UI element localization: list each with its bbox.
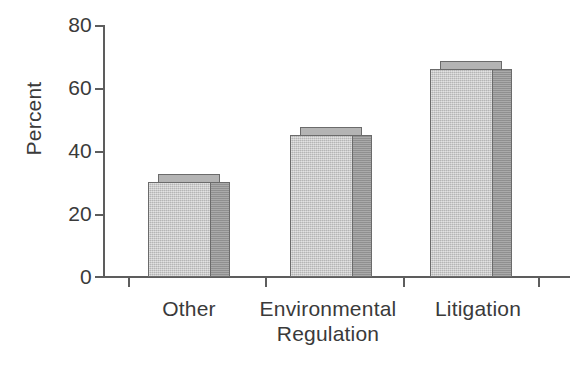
bar-other-side-face	[210, 182, 230, 277]
x-category-label-other: Other	[124, 296, 254, 321]
y-tick-80	[95, 25, 104, 27]
x-category-label-litigation-line1: Litigation	[435, 297, 521, 320]
bar-other[interactable]	[148, 182, 230, 277]
x-tick-3	[403, 278, 405, 287]
x-category-label-environmental-regulation: Environmental Regulation	[248, 296, 408, 346]
x-category-label-litigation: Litigation	[408, 296, 548, 321]
x-tick-2	[265, 278, 267, 287]
y-tick-label-0: 0	[36, 266, 92, 287]
bar-litigation-front-face	[430, 69, 493, 277]
plot-area: 80 60 40 20 0 Percent	[0, 0, 586, 373]
x-category-label-environmental-regulation-line2: Regulation	[248, 321, 408, 346]
y-axis-title: Percent	[23, 69, 44, 169]
y-tick-label-80: 80	[36, 14, 92, 35]
x-category-label-environmental-regulation-line1: Environmental	[260, 297, 397, 320]
bar-environmental-regulation[interactable]	[290, 135, 372, 277]
bar-litigation[interactable]	[430, 69, 512, 277]
y-tick-40	[95, 151, 104, 153]
bar-litigation-side-face	[492, 69, 512, 277]
x-tick-4	[538, 278, 540, 287]
bar-environmental-regulation-side-face	[352, 135, 372, 277]
bar-environmental-regulation-front-face	[290, 135, 353, 277]
x-category-label-other-line1: Other	[162, 297, 216, 320]
bar-other-front-face	[148, 182, 211, 277]
bar-chart: 80 60 40 20 0 Percent	[0, 0, 586, 373]
x-tick-1	[128, 278, 130, 287]
y-tick-60	[95, 88, 104, 90]
y-tick-label-20: 20	[36, 203, 92, 224]
y-tick-20	[95, 214, 104, 216]
